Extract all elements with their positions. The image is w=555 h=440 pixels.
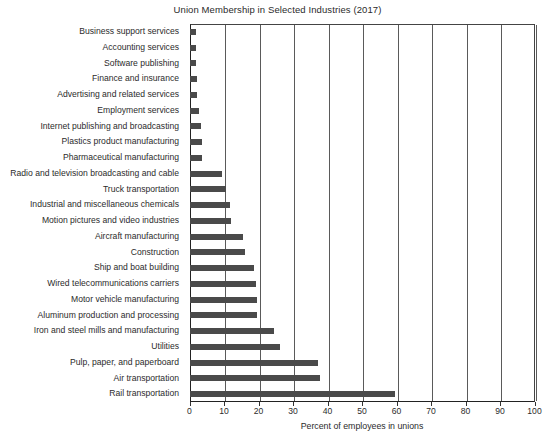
x-tick-label: 10 [219,406,229,416]
category-label: Accounting services [0,40,185,56]
bar-row [190,260,535,276]
category-label: Pharmaceutical manufacturing [0,150,185,166]
bar-row [190,134,535,150]
bar [190,45,197,51]
category-label: Motion pictures and video industries [0,213,185,229]
bar-row [190,213,535,229]
category-label: Aircraft manufacturing [0,229,185,245]
category-label: Plastics product manufacturing [0,134,185,150]
bar [190,76,198,82]
bar-row [190,56,535,72]
bar [190,312,258,318]
x-tick-label: 70 [426,406,436,416]
category-label: Aluminum production and processing [0,308,185,324]
category-label: Motor vehicle manufacturing [0,292,185,308]
x-tick-label: 50 [357,406,367,416]
bar-row [190,87,535,103]
bar-row [190,40,535,56]
x-tick-label: 100 [527,406,541,416]
bar-row [190,292,535,308]
bar-row [190,103,535,119]
bar-row [190,166,535,182]
category-label: Construction [0,245,185,261]
bar-row [190,339,535,355]
bar [190,344,280,350]
bar [190,265,255,271]
bar-row [190,386,535,402]
x-tick-label: 40 [323,406,333,416]
x-tick-label: 90 [495,406,505,416]
category-axis-labels: Business support servicesAccounting serv… [0,24,185,402]
category-label: Rail transportation [0,386,185,402]
bar [190,249,246,255]
x-tick-label: 80 [461,406,471,416]
x-tick-label: 60 [392,406,402,416]
bar [190,186,226,192]
category-label: Employment services [0,103,185,119]
bar-row [190,71,535,87]
bar [190,375,321,381]
gridline [536,25,537,401]
bar [190,360,318,366]
bar-row [190,355,535,371]
bar-row [190,371,535,387]
bar-row [190,150,535,166]
category-label: Finance and insurance [0,71,185,87]
bar-row [190,197,535,213]
bar [190,328,275,334]
bar-row [190,323,535,339]
category-label: Software publishing [0,56,185,72]
category-label: Iron and steel mills and manufacturing [0,323,185,339]
bar [190,297,258,303]
bar [190,234,244,240]
bar-row [190,308,535,324]
category-label: Business support services [0,24,185,40]
bar [190,29,196,35]
bar [190,108,200,114]
bar [190,60,197,66]
bar-row [190,229,535,245]
bar [190,202,230,208]
category-label: Industrial and miscellaneous chemicals [0,197,185,213]
bar [190,139,202,145]
bar [190,218,231,224]
category-label: Radio and television broadcasting and ca… [0,166,185,182]
x-axis-title: Percent of employees in unions [190,421,535,431]
bar [190,281,257,287]
category-label: Wired telecommunications carriers [0,276,185,292]
bar [190,391,395,397]
category-label: Air transportation [0,371,185,387]
bar-row [190,276,535,292]
bar [190,171,222,177]
bar [190,92,198,98]
bar-row [190,24,535,40]
category-label: Truck transportation [0,182,185,198]
bars-layer [190,24,535,402]
chart-container: Union Membership in Selected Industries … [0,0,555,440]
bar [190,155,202,161]
category-label: Pulp, paper, and paperboard [0,355,185,371]
bar-row [190,182,535,198]
chart-title: Union Membership in Selected Industries … [0,4,555,15]
category-label: Advertising and related services [0,87,185,103]
category-label: Internet publishing and broadcasting [0,119,185,135]
x-axis: 0102030405060708090100 [190,402,535,422]
x-tick-label: 20 [254,406,264,416]
category-label: Utilities [0,339,185,355]
bar [190,123,201,129]
bar-row [190,119,535,135]
bar-row [190,245,535,261]
x-tick-label: 30 [288,406,298,416]
category-label: Ship and boat building [0,260,185,276]
x-tick-label: 0 [187,406,192,416]
